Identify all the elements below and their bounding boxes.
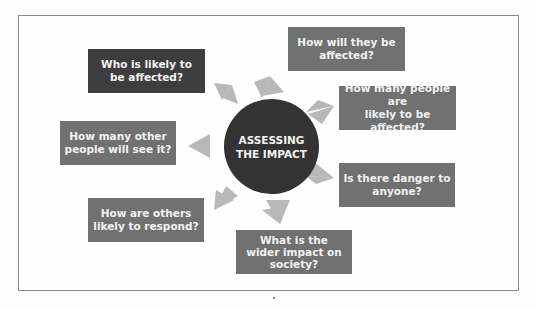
page-mark (273, 297, 275, 299)
center-circle: ASSESSING THE IMPACT (224, 99, 319, 194)
node-who-affected: Who is likely to be affected? (88, 49, 205, 93)
node-how-affected: How will they be affected? (288, 27, 405, 71)
node-how-many-affected: How many people are likely to be affecte… (339, 86, 456, 130)
node-wider-impact: What is the wider impact on society? (236, 230, 352, 274)
node-danger: Is there danger to anyone? (339, 163, 455, 207)
arrow-icon (188, 134, 210, 158)
node-others-respond: How are others likely to respond? (88, 198, 204, 242)
node-how-many-see: How many other people will see it? (60, 121, 176, 165)
